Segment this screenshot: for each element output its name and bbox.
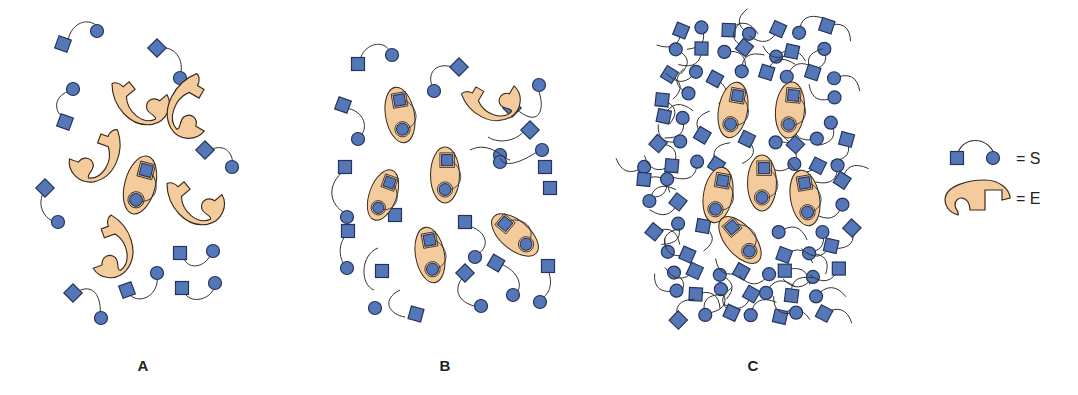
- substrate: [64, 284, 108, 325]
- legend: [945, 141, 1010, 216]
- enzyme-saturation-diagram: [0, 0, 1078, 395]
- enzyme: [104, 61, 177, 136]
- enzyme-substrate-complex: [786, 168, 825, 228]
- substrate: [815, 305, 851, 323]
- enzyme-substrate-complex: [773, 81, 808, 140]
- substrate: [459, 216, 486, 264]
- substrate: [174, 245, 220, 266]
- enzyme-substrate-complex: [714, 80, 753, 140]
- substrate: [148, 39, 187, 85]
- substrate: [810, 288, 846, 303]
- substrate: [340, 225, 354, 275]
- panel-label-b: B: [440, 357, 451, 374]
- substrate: [57, 83, 80, 131]
- substrate: [335, 97, 365, 146]
- substrate: [196, 141, 239, 174]
- panel-c: [616, 9, 869, 329]
- substrate: [534, 260, 555, 309]
- enzyme: [64, 118, 127, 190]
- substrate: [828, 72, 860, 91]
- substrate: [809, 84, 841, 104]
- enzyme-substrate-complex: [748, 155, 778, 211]
- substrate: [176, 277, 222, 300]
- enzyme-substrate-complex: [381, 85, 420, 145]
- enzyme-substrate-complex: [118, 152, 164, 218]
- enzyme-substrate-complex: [699, 165, 738, 225]
- panel-a: [36, 22, 239, 325]
- substrate: [744, 300, 776, 322]
- substrate: [669, 299, 695, 329]
- substrate: [352, 44, 399, 70]
- substrate: [487, 254, 519, 301]
- panel-label-a: A: [138, 357, 149, 374]
- enzyme-substrate-complex: [431, 147, 461, 203]
- substrate: [364, 248, 389, 315]
- legend-enzyme-symbol: [945, 180, 1010, 215]
- panel-label-c: C: [748, 357, 759, 374]
- substrate: [693, 111, 711, 144]
- substrate: [739, 9, 755, 40]
- substrate: [616, 158, 651, 173]
- legend-substrate-label: = S: [1016, 150, 1040, 168]
- enzyme: [159, 161, 232, 236]
- enzyme-substrate-complex: [411, 225, 450, 285]
- substrate: [772, 226, 807, 240]
- substrate: [696, 219, 713, 252]
- enzyme: [78, 212, 141, 284]
- substrate: [711, 283, 728, 313]
- substrate: [763, 44, 800, 59]
- substrate: [832, 131, 855, 161]
- legend-enzyme-label: = E: [1016, 190, 1040, 208]
- substrate: [819, 18, 851, 41]
- substrate: [456, 264, 488, 313]
- enzyme: [457, 65, 527, 130]
- legend-substrate-symbol: [951, 141, 1000, 165]
- panel-b: [332, 44, 557, 322]
- substrate: [738, 130, 755, 163]
- substrate: [55, 22, 104, 52]
- substrate: [332, 161, 354, 224]
- substrate: [36, 179, 65, 229]
- substrate: [428, 58, 469, 98]
